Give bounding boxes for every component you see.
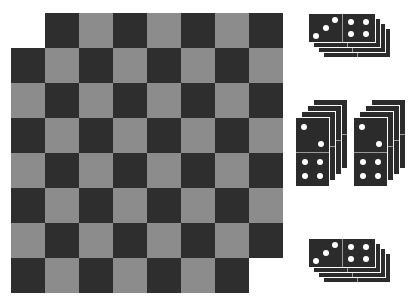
dark-square — [79, 188, 113, 223]
pip-dot — [313, 33, 319, 39]
pip-dot — [363, 244, 369, 250]
pip-dot — [363, 256, 369, 262]
pip-dot — [302, 173, 308, 179]
pip-dot — [359, 124, 365, 130]
dark-square — [11, 118, 45, 153]
dark-square — [113, 153, 147, 188]
domino — [308, 13, 376, 43]
pip-dot — [301, 124, 307, 130]
light-square — [215, 153, 249, 188]
dark-square — [147, 258, 181, 293]
pip-dot — [348, 244, 354, 250]
dark-square — [45, 223, 79, 258]
light-square — [181, 258, 215, 293]
light-square — [147, 13, 181, 48]
light-square — [79, 223, 113, 258]
dark-square — [215, 188, 249, 223]
domino-half — [309, 239, 342, 267]
dark-square — [113, 83, 147, 118]
dark-square — [11, 48, 45, 83]
dark-square — [215, 258, 249, 293]
light-square — [181, 48, 215, 83]
light-square — [45, 188, 79, 223]
domino-half — [354, 118, 387, 152]
domino-half — [354, 152, 387, 186]
pip-dot — [323, 250, 329, 256]
domino-half — [342, 14, 375, 42]
pip-dot — [317, 173, 323, 179]
light-square — [215, 223, 249, 258]
light-square — [215, 83, 249, 118]
light-square — [181, 188, 215, 223]
domino — [295, 117, 330, 187]
pip-dot — [363, 31, 369, 37]
pip-dot — [363, 19, 369, 25]
domino — [353, 117, 388, 187]
pip-dot — [317, 159, 323, 165]
dark-square — [79, 258, 113, 293]
light-square — [147, 153, 181, 188]
light-square — [11, 83, 45, 118]
dark-square — [11, 188, 45, 223]
light-square — [45, 118, 79, 153]
pip-dot — [332, 242, 338, 248]
light-square — [249, 48, 283, 83]
pip-dot — [318, 141, 324, 147]
dark-square — [45, 83, 79, 118]
dark-square — [181, 223, 215, 258]
dark-square — [249, 13, 283, 48]
dark-square — [45, 13, 79, 48]
light-square — [45, 258, 79, 293]
domino-half — [296, 118, 329, 152]
pip-dot — [376, 141, 382, 147]
light-square — [11, 153, 45, 188]
pip-dot — [360, 159, 366, 165]
dark-square — [181, 83, 215, 118]
domino-half — [296, 152, 329, 186]
dark-square — [249, 223, 283, 258]
light-square — [215, 13, 249, 48]
pip-dot — [375, 173, 381, 179]
light-square — [147, 83, 181, 118]
domino — [308, 238, 376, 268]
dark-square — [147, 188, 181, 223]
light-square — [79, 13, 113, 48]
pip-dot — [348, 256, 354, 262]
light-square — [79, 83, 113, 118]
dark-square — [113, 223, 147, 258]
dark-square — [113, 13, 147, 48]
domino-half — [309, 14, 342, 42]
dark-square — [79, 48, 113, 83]
pip-dot — [375, 159, 381, 165]
light-square — [45, 48, 79, 83]
light-square — [113, 258, 147, 293]
pip-dot — [332, 17, 338, 23]
pip-dot — [360, 173, 366, 179]
dark-square — [181, 153, 215, 188]
light-square — [113, 118, 147, 153]
dark-square — [79, 118, 113, 153]
pip-dot — [348, 19, 354, 25]
dark-square — [215, 48, 249, 83]
dark-square — [11, 258, 45, 293]
light-square — [11, 223, 45, 258]
dark-square — [45, 153, 79, 188]
light-square — [113, 48, 147, 83]
dark-square — [215, 118, 249, 153]
checkerboard — [0, 0, 290, 301]
pip-dot — [313, 258, 319, 264]
pip-dot — [323, 25, 329, 31]
pip-dot — [302, 159, 308, 165]
dark-square — [147, 118, 181, 153]
light-square — [113, 188, 147, 223]
dark-square — [181, 13, 215, 48]
dark-square — [249, 153, 283, 188]
light-square — [181, 118, 215, 153]
light-square — [79, 153, 113, 188]
light-square — [249, 188, 283, 223]
light-square — [147, 223, 181, 258]
domino-half — [342, 239, 375, 267]
dark-square — [249, 83, 283, 118]
dark-square — [147, 48, 181, 83]
pip-dot — [348, 31, 354, 37]
